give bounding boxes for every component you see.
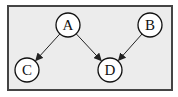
node-a: A [56,13,80,37]
node-d: D [98,58,122,82]
node-c: C [15,58,39,82]
node-label: B [145,17,155,33]
diagram-canvas: ABCD [0,0,178,97]
node-b: B [138,13,162,37]
graph-svg: ABCD [0,0,178,97]
node-label: D [105,62,116,78]
node-label: C [22,62,32,78]
node-label: A [63,17,74,33]
